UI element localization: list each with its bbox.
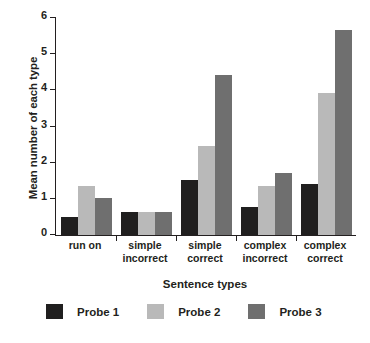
- category-label-line: complex: [295, 239, 355, 252]
- legend-label: Probe 3: [279, 306, 321, 318]
- bar-group: [116, 18, 176, 235]
- bar: [318, 93, 335, 235]
- legend-label: Probe 1: [77, 306, 119, 318]
- y-axis-title: Mean number of each type: [27, 23, 39, 233]
- legend-swatch-icon: [248, 304, 265, 319]
- y-tick-label: 0: [41, 227, 47, 238]
- bar: [241, 207, 258, 235]
- category-label-line: incorrect: [235, 252, 295, 265]
- y-tick-label: 6: [41, 10, 47, 21]
- legend-item[interactable]: Probe 2: [147, 304, 220, 319]
- bar-group: [236, 18, 296, 235]
- category-label: simpleincorrect: [115, 239, 175, 264]
- category-label-line: simple: [175, 239, 235, 252]
- category-label-line: incorrect: [115, 252, 175, 265]
- bar-group: [176, 18, 236, 235]
- bar-chart-figure: Mean number of each type 0123456 run ons…: [0, 0, 370, 343]
- category-label-line: correct: [175, 252, 235, 265]
- bar: [121, 212, 138, 236]
- chart-legend: Probe 1Probe 2Probe 3: [46, 304, 346, 319]
- x-axis-category-labels: run onsimpleincorrectsimplecorrectcomple…: [55, 239, 355, 264]
- bar: [138, 212, 155, 235]
- bar: [78, 186, 95, 235]
- category-label-line: complex: [235, 239, 295, 252]
- y-tick-label: 2: [41, 155, 47, 166]
- bar: [275, 173, 292, 235]
- bar: [198, 146, 215, 235]
- legend-swatch-icon: [46, 304, 63, 319]
- y-tick-label: 5: [41, 46, 47, 57]
- category-label: complexcorrect: [295, 239, 355, 264]
- legend-swatch-icon: [147, 304, 164, 319]
- plot-area: 0123456: [55, 18, 356, 236]
- category-label-line: run on: [55, 239, 115, 252]
- bar-group: [296, 18, 356, 235]
- legend-item[interactable]: Probe 3: [248, 304, 321, 319]
- bar: [181, 180, 198, 235]
- bar-groups: [56, 18, 356, 235]
- bar: [335, 30, 352, 235]
- legend-item[interactable]: Probe 1: [46, 304, 119, 319]
- x-axis-title: Sentence types: [55, 278, 355, 290]
- bar-group: [56, 18, 116, 235]
- category-label: complexincorrect: [235, 239, 295, 264]
- y-tick-label: 4: [41, 82, 47, 93]
- y-tick-label: 3: [41, 119, 47, 130]
- bar: [258, 186, 275, 235]
- category-label: run on: [55, 239, 115, 264]
- category-label-line: simple: [115, 239, 175, 252]
- legend-label: Probe 2: [178, 306, 220, 318]
- category-label: simplecorrect: [175, 239, 235, 264]
- category-label-line: correct: [295, 252, 355, 265]
- y-tick-label: 1: [41, 191, 47, 202]
- bar: [95, 198, 112, 235]
- bar: [61, 217, 78, 235]
- bar: [155, 212, 172, 235]
- bar: [301, 184, 318, 235]
- bar: [215, 75, 232, 235]
